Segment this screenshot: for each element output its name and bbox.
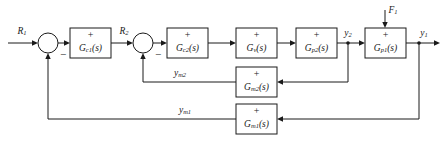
arrow-into-sum1 xyxy=(45,53,50,59)
summing-junction-sum1[interactable]: − xyxy=(38,33,66,60)
signal-label-r2: R2 xyxy=(118,26,129,36)
arrow-gc2-gv xyxy=(230,40,236,45)
arrow-f1-into-gp1 xyxy=(382,22,387,28)
arrow-gp2-gp1 xyxy=(359,40,365,45)
summing-junction-sum2[interactable]: − xyxy=(133,33,161,60)
arrow-sum2-gc2 xyxy=(161,40,167,45)
arrow-gv-gp2 xyxy=(290,40,296,45)
signal-label-y2: y2 xyxy=(343,28,352,38)
arrow-into-sum2 xyxy=(140,53,145,59)
sum1-minus-sign: − xyxy=(60,48,66,60)
arrow-r1-input xyxy=(32,40,38,45)
arrow-into-gm2 xyxy=(277,79,283,84)
signal-label-ym2: ym2 xyxy=(173,68,187,78)
node-dot-y2 xyxy=(346,41,350,45)
block-gc2-plus: + xyxy=(185,29,191,40)
signal-label-r1: R1 xyxy=(16,26,26,36)
arrow-sum1-gc1 xyxy=(64,40,70,45)
block-gv-plus: + xyxy=(254,29,260,40)
block-gc1-plus: + xyxy=(88,29,94,40)
block-gm2[interactable]: + Gm2(s) xyxy=(236,67,277,97)
block-gp1-plus: + xyxy=(383,29,389,40)
sum2-minus-sign: − xyxy=(155,48,161,60)
block-diagram-svg: − − + Gc1(s) + Gc2(s) + Gv(s) + Gp2 xyxy=(0,0,446,146)
sum1-circle xyxy=(38,33,58,53)
signal-label-ym1: ym1 xyxy=(178,105,191,115)
block-gp2-plus: + xyxy=(314,29,320,40)
arrow-gc1-sum2 xyxy=(127,40,133,45)
signal-label-f1: F1 xyxy=(387,5,397,15)
block-gm1-plus: + xyxy=(254,105,260,116)
arrow-gp1-output xyxy=(434,40,440,45)
block-gm2-plus: + xyxy=(254,68,260,79)
block-gv[interactable]: + Gv(s) xyxy=(236,28,277,58)
disturbance-input-wires xyxy=(382,10,387,28)
block-gp1[interactable]: + Gp1(s) xyxy=(365,28,406,58)
block-gm1[interactable]: + Gm1(s) xyxy=(236,104,277,134)
arrow-into-gm1 xyxy=(277,116,283,121)
node-dot-y1 xyxy=(417,41,421,45)
block-gc1[interactable]: + Gc1(s) xyxy=(70,28,111,58)
block-gc2[interactable]: + Gc2(s) xyxy=(167,28,208,58)
block-gv-label: Gv(s) xyxy=(247,43,267,54)
sum2-circle xyxy=(133,33,153,53)
block-gp2[interactable]: + Gp2(s) xyxy=(296,28,337,58)
signal-label-y1: y1 xyxy=(419,28,427,38)
block-diagram-canvas: − − + Gc1(s) + Gc2(s) + Gv(s) + Gp2 xyxy=(0,0,446,146)
